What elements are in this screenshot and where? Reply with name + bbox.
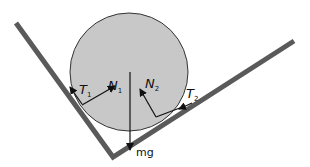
weight-label: mg bbox=[136, 146, 154, 159]
free-body-diagram: T1 N1 N2 T2 mg bbox=[0, 0, 310, 167]
t2-label: T2 bbox=[186, 86, 198, 103]
sphere bbox=[70, 13, 188, 131]
